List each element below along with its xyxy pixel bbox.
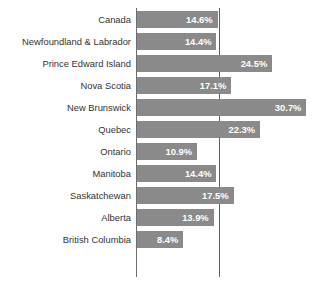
bar: 13.9% [137, 209, 214, 226]
bar: 14.4% [137, 33, 216, 50]
category-label: Nova Scotia [0, 77, 131, 94]
bar-value-label: 8.4% [157, 231, 178, 248]
category-label: Alberta [0, 209, 131, 226]
bar-row: Quebec22.3% [0, 121, 324, 143]
bar-wrapper: 10.9% [137, 143, 197, 160]
bar-wrapper: 14.4% [137, 165, 216, 182]
bar-value-label: 30.7% [275, 99, 302, 116]
bar-value-label: 17.5% [202, 187, 229, 204]
bar-wrapper: 17.5% [137, 187, 234, 204]
bar: 30.7% [137, 99, 306, 116]
bar-row: British Columbia8.4% [0, 231, 324, 253]
bar-value-label: 13.9% [182, 209, 209, 226]
bar: 24.5% [137, 55, 272, 72]
bar-wrapper: 14.4% [137, 33, 216, 50]
bar: 10.9% [137, 143, 197, 160]
bar: 14.6% [137, 11, 218, 28]
category-label: Canada [0, 11, 131, 28]
bar-wrapper: 17.1% [137, 77, 231, 94]
bar: 17.1% [137, 77, 231, 94]
bar-value-label: 10.9% [166, 143, 193, 160]
bar-row: Saskatchewan17.5% [0, 187, 324, 209]
bar-chart: Canada14.6%Newfoundland & Labrador14.4%P… [0, 0, 324, 289]
bar-rows: Canada14.6%Newfoundland & Labrador14.4%P… [0, 11, 324, 253]
bar-value-label: 14.4% [185, 165, 212, 182]
bar-row: Alberta13.9% [0, 209, 324, 231]
category-label: Manitoba [0, 165, 131, 182]
plot-area: Canada14.6%Newfoundland & Labrador14.4%P… [0, 0, 324, 289]
bar-wrapper: 14.6% [137, 11, 218, 28]
bar-wrapper: 8.4% [137, 231, 183, 248]
category-label: Prince Edward Island [0, 55, 131, 72]
bar-wrapper: 22.3% [137, 121, 260, 138]
bar-row: Manitoba14.4% [0, 165, 324, 187]
bar-row: Prince Edward Island24.5% [0, 55, 324, 77]
category-label: Quebec [0, 121, 131, 138]
bar-value-label: 14.6% [186, 11, 213, 28]
bar-wrapper: 13.9% [137, 209, 214, 226]
bar-value-label: 22.3% [229, 121, 256, 138]
bar-row: Ontario10.9% [0, 143, 324, 165]
bar-wrapper: 30.7% [137, 99, 306, 116]
bar: 17.5% [137, 187, 234, 204]
bar-value-label: 24.5% [241, 55, 268, 72]
bar-value-label: 17.1% [200, 77, 227, 94]
bar: 8.4% [137, 231, 183, 248]
bar-wrapper: 24.5% [137, 55, 272, 72]
bar-row: New Brunswick30.7% [0, 99, 324, 121]
category-label: Ontario [0, 143, 131, 160]
category-label: New Brunswick [0, 99, 131, 116]
bar: 22.3% [137, 121, 260, 138]
bar-row: Nova Scotia17.1% [0, 77, 324, 99]
category-label: Newfoundland & Labrador [0, 33, 131, 50]
bar-row: Canada14.6% [0, 11, 324, 33]
bar-row: Newfoundland & Labrador14.4% [0, 33, 324, 55]
category-label: British Columbia [0, 231, 131, 248]
bar-value-label: 14.4% [185, 33, 212, 50]
bar: 14.4% [137, 165, 216, 182]
category-label: Saskatchewan [0, 187, 131, 204]
